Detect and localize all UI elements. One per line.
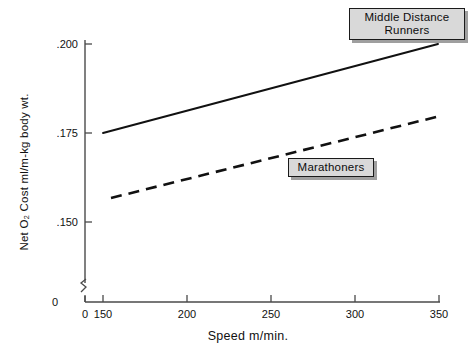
x-tick-label-0: 0	[82, 308, 88, 320]
x-axis-title: Speed m/min.	[208, 329, 289, 343]
series-line-middle-distance-runners	[103, 44, 438, 133]
x-tick-label-300: 300	[346, 308, 364, 320]
y-axis-zero-label: 0	[52, 296, 58, 308]
annotation-middle-distance-runners: Middle Distance Runners	[349, 8, 465, 40]
y-axis-title: Net O₂ Cost ml/m-kg body wt.	[18, 93, 30, 250]
x-tick-label-350: 350	[430, 308, 448, 320]
y-tick-label-175: .175	[57, 127, 78, 139]
x-tick-label-200: 200	[178, 308, 196, 320]
annotation-marathoners: Marathoners	[288, 158, 374, 177]
chart-container: .200 .175 .150 0 0 150 200 250 300 350 S…	[0, 0, 475, 358]
y-tick-label-200: .200	[57, 38, 78, 50]
x-tick-label-250: 250	[262, 308, 280, 320]
y-tick-label-150: .150	[57, 216, 78, 228]
x-tick-label-150: 150	[94, 308, 112, 320]
series-line-marathoners	[111, 116, 440, 198]
line-chart-plot: .200 .175 .150 0 0 150 200 250 300 350 S…	[0, 0, 475, 358]
